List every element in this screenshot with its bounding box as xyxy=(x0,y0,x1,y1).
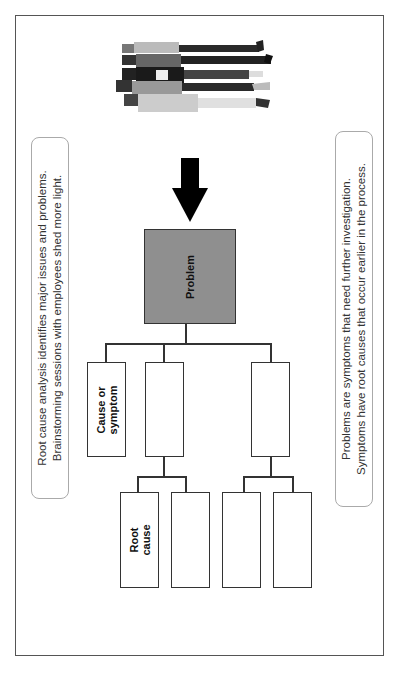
leaf-node-label-line2: cause xyxy=(140,524,152,555)
mid-node-box-3 xyxy=(251,362,290,457)
connector xyxy=(185,323,187,344)
cause-or-symptom-box: Cause or symptom xyxy=(87,362,126,457)
callout-left-line1: Root cause analysis identifies major iss… xyxy=(35,170,50,465)
problem-label: Problem xyxy=(184,254,196,298)
connector xyxy=(163,343,165,363)
people-group-icon xyxy=(108,40,274,116)
root-cause-box: Root cause xyxy=(120,492,159,588)
mid-node-label-line1: Cause or xyxy=(95,385,107,434)
callout-problems-symptoms: Problems are symptoms that need further … xyxy=(335,131,373,507)
mid-node-box-2 xyxy=(145,362,184,457)
connector xyxy=(105,343,271,345)
mid-node-label-line2: symptom xyxy=(107,385,119,434)
leaf-node-box-2 xyxy=(171,492,210,588)
connector xyxy=(270,343,272,363)
connector xyxy=(185,476,187,493)
connector xyxy=(270,456,272,477)
callout-left-line2: Brainstorming sessions with employees sh… xyxy=(50,170,65,465)
down-arrow-icon xyxy=(172,158,208,224)
leaf-node-box-3 xyxy=(222,492,261,588)
callout-right-line1: Problems are symptoms that need further … xyxy=(339,163,354,475)
problem-box: Problem xyxy=(144,229,236,324)
connector xyxy=(292,476,294,493)
connector xyxy=(137,476,139,493)
connector xyxy=(243,476,245,493)
connector xyxy=(137,476,186,478)
leaf-node-box-4 xyxy=(273,492,312,588)
connector xyxy=(163,456,165,477)
callout-right-line2: Symptoms have root causes that occur ear… xyxy=(354,163,369,475)
callout-root-cause-analysis: Root cause analysis identifies major iss… xyxy=(31,137,69,499)
connector xyxy=(243,476,293,478)
connector xyxy=(105,343,107,363)
employees-illustration xyxy=(108,40,274,116)
leaf-node-label-line1: Root xyxy=(128,524,140,555)
